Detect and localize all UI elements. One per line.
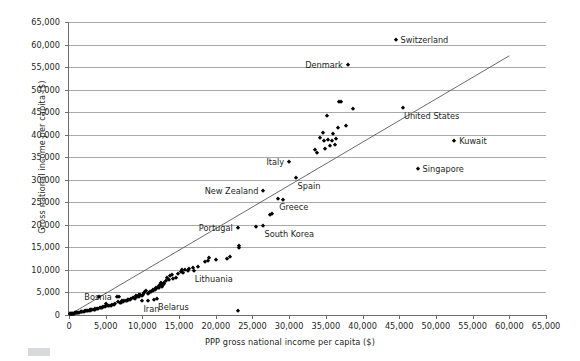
x-axis-tick: [399, 315, 400, 319]
y-axis-tick-label: 45,000: [0, 107, 60, 117]
x-axis-tick: [326, 315, 327, 319]
y-axis-tick-label: 40,000: [0, 130, 60, 140]
y-axis-tick-label: 20,000: [0, 220, 60, 230]
x-axis-tick-label: 15,000: [165, 321, 194, 331]
x-axis-tick: [142, 315, 143, 319]
x-axis-tick-label: 20,000: [201, 321, 230, 331]
x-axis-tick-label: 45,000: [385, 321, 414, 331]
y-axis-tick-label: 55,000: [0, 62, 60, 72]
point-label: South Korea: [264, 229, 314, 239]
x-axis-tick: [179, 315, 180, 319]
point-label: Lithuania: [195, 274, 233, 284]
point-label: Spain: [297, 181, 320, 191]
x-axis-tick: [252, 315, 253, 319]
point-label: Denmark: [305, 60, 343, 70]
point-label: Bosnia: [84, 292, 111, 302]
y-axis-tick-label: 0: [0, 310, 60, 320]
point-label: United States: [404, 111, 459, 121]
point-label: Kuwait: [459, 136, 486, 146]
x-axis-tick: [106, 315, 107, 319]
point-label: Italy: [266, 157, 284, 167]
y-axis-tick-label: 15,000: [0, 242, 60, 252]
x-axis-tick-label: 50,000: [422, 321, 451, 331]
chart-figure: Gross national income per capita ($) PPP…: [0, 0, 580, 361]
y-axis-tick-label: 35,000: [0, 152, 60, 162]
point-label: Switzerland: [401, 35, 449, 45]
x-axis-tick-label: 0: [66, 321, 71, 331]
x-axis-tick-label: 40,000: [348, 321, 377, 331]
y-axis-tick-label: 5,000: [0, 287, 60, 297]
point-label: Portugal: [199, 223, 233, 233]
x-axis-tick-label: 10,000: [128, 321, 157, 331]
y-axis-tick-label: 10,000: [0, 265, 60, 275]
x-axis-tick-label: 65,000: [532, 321, 561, 331]
x-axis-tick: [289, 315, 290, 319]
x-axis-tick: [436, 315, 437, 319]
x-axis-tick: [546, 315, 547, 319]
x-axis-tick-label: 25,000: [238, 321, 267, 331]
x-axis-tick-label: 5,000: [94, 321, 117, 331]
x-axis-tick: [509, 315, 510, 319]
corner-mark: [28, 348, 50, 356]
x-axis-title: PPP gross national income per capita ($): [0, 337, 580, 347]
x-axis-tick: [473, 315, 474, 319]
y-axis-tick-label: 30,000: [0, 175, 60, 185]
x-axis-tick-label: 35,000: [312, 321, 341, 331]
point-label: Belarus: [158, 302, 189, 312]
y-axis-tick-label: 50,000: [0, 85, 60, 95]
x-axis-tick-label: 55,000: [458, 321, 487, 331]
point-label: Greece: [279, 202, 308, 212]
x-axis-tick-label: 30,000: [275, 321, 304, 331]
y-axis-tick-label: 25,000: [0, 197, 60, 207]
x-axis-tick: [216, 315, 217, 319]
y-axis-tick-label: 60,000: [0, 40, 60, 50]
plot-area: 05,00010,00015,00020,00025,00030,00035,0…: [68, 22, 546, 316]
y-axis-tick-label: 65,000: [0, 17, 60, 27]
point-label: Singapore: [423, 164, 464, 174]
point-label: Iran: [143, 304, 159, 314]
point-label: New Zealand: [205, 186, 259, 196]
x-axis-tick-label: 60,000: [495, 321, 524, 331]
x-axis-tick: [363, 315, 364, 319]
